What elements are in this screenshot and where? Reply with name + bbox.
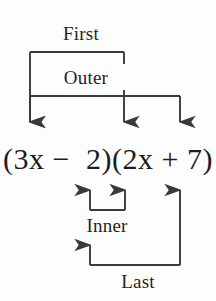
expression-left-constant: 2: [86, 144, 102, 174]
expression-left-operator: −: [53, 144, 70, 174]
expression-right-variable: x: [138, 144, 154, 174]
expression-left-coefficient: 3: [14, 144, 30, 174]
expression-right-coefficient: 2: [123, 144, 139, 174]
expression-left-spacer-1: [45, 144, 53, 174]
expression-right-operator: +: [162, 144, 179, 174]
expression-right-constant: 7: [187, 144, 203, 174]
expression-left-variable: x: [29, 144, 45, 174]
expression-right-spacer-2: [179, 144, 187, 174]
expression-left-paren-close: ): [102, 144, 113, 174]
bracket-inner: [90, 190, 125, 210]
bracket-label-outer: Outer: [46, 64, 126, 90]
foil-method-diagram: First Outer Inner Last (3x − 2)(2x + 7): [0, 0, 216, 301]
bracket-label-inner-text: Inner: [86, 216, 127, 235]
bracket-label-outer-text: Outer: [64, 68, 108, 87]
binomial-expression: (3x − 2)(2x + 7): [0, 139, 216, 179]
expression-left-paren-open: (: [3, 144, 14, 174]
bracket-label-last-text: Last: [121, 272, 155, 291]
bracket-label-last: Last: [100, 268, 176, 294]
expression-right-paren-close: ): [202, 144, 213, 174]
expression-left-spacer-2: [70, 144, 86, 174]
expression-right-spacer-1: [154, 144, 162, 174]
bracket-outer: [30, 96, 180, 122]
bracket-label-first: First: [38, 20, 124, 46]
expression-right-paren-open: (: [112, 144, 123, 174]
bracket-label-first-text: First: [63, 24, 99, 43]
bracket-label-inner: Inner: [67, 212, 147, 238]
